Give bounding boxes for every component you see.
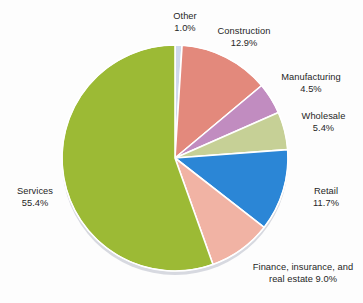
pie-label-manufacturing-name: Manufacturing (265, 72, 357, 84)
pie-chart-svg: Other 1.0%Construction 12.9%Manufacturin… (0, 0, 363, 303)
pie-label-services-value: 55.4% (6, 198, 64, 210)
pie-label-finance: Finance, insurance, and real estate 9.0% (246, 262, 360, 285)
pie-chart-figure: Other 1.0%Construction 12.9%Manufacturin… (0, 0, 363, 303)
pie-label-services: Services 55.4% (6, 186, 64, 209)
pie-label-manufacturing-value: 4.5% (265, 84, 357, 96)
pie-label-wholesale-value: 5.4% (290, 123, 357, 135)
pie-label-construction-value: 12.9% (207, 38, 281, 50)
pie-label-construction-name: Construction (207, 26, 281, 38)
pie-label-finance-line1: Finance, insurance, and (246, 262, 360, 274)
pie-label-other-name: Other (157, 11, 213, 23)
pie-label-other: Other 1.0% (157, 11, 213, 34)
pie-label-retail: Retail 11.7% (296, 186, 356, 209)
pie-label-wholesale: Wholesale 5.4% (290, 111, 357, 134)
pie-label-wholesale-name: Wholesale (290, 111, 357, 123)
pie-label-construction: Construction 12.9% (207, 26, 281, 49)
pie-label-services-name: Services (6, 186, 64, 198)
pie-label-finance-line2: real estate 9.0% (246, 274, 360, 286)
pie-slice-group: Other 1.0%Construction 12.9%Manufacturin… (62, 45, 288, 271)
pie-chart-canvas: Other 1.0%Construction 12.9%Manufacturin… (0, 0, 363, 303)
pie-label-retail-name: Retail (296, 186, 356, 198)
pie-label-other-value: 1.0% (157, 23, 213, 35)
pie-label-retail-value: 11.7% (296, 198, 356, 210)
pie-label-manufacturing: Manufacturing 4.5% (265, 72, 357, 95)
